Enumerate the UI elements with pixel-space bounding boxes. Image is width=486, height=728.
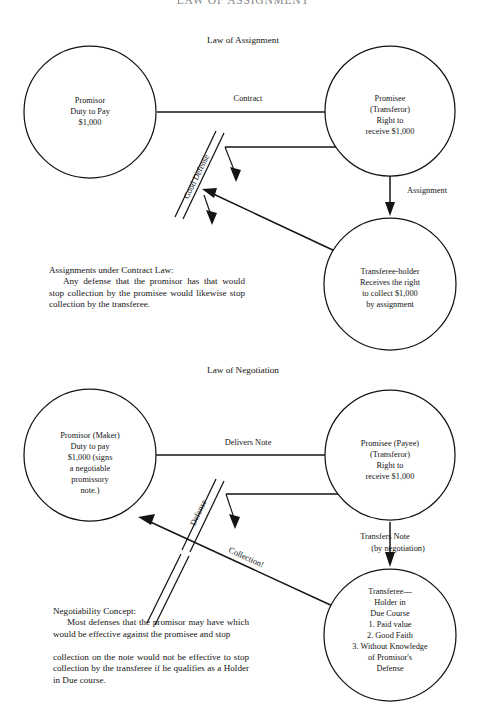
edge-label-contract: Contract bbox=[234, 94, 264, 103]
node-hdc-line-1: Transferee— bbox=[368, 587, 412, 596]
node-promisor2-line-6: note.) bbox=[80, 486, 99, 495]
node-promisee2-line-1: Promisee (Payee) bbox=[361, 439, 420, 448]
note-assignment-body: Any defense that the promisor has that w… bbox=[49, 276, 245, 309]
defense-bar-stroke-1 bbox=[183, 133, 224, 219]
arrowhead-promisee-defense bbox=[230, 167, 241, 182]
arrowhead-transfers-note bbox=[385, 552, 395, 567]
edge-label-assignment: Assignment bbox=[407, 186, 448, 195]
node-promisor2-line-5: promissory bbox=[71, 475, 109, 484]
edge-label-transfers-note-1: Transfers Note bbox=[360, 532, 410, 541]
node-transferee-line-4: by assignment bbox=[366, 300, 414, 309]
arrowhead-collection-blocked bbox=[206, 210, 217, 225]
node-hdc-line-5: 2. Good Faith bbox=[367, 631, 414, 640]
node-promisor2-line-4: a negotiable bbox=[70, 464, 111, 473]
note-negotiability-concept-continued: collection on the note would not be effe… bbox=[53, 652, 249, 686]
node-promisor-line-2: Duty to Pay bbox=[70, 107, 110, 116]
node-transferee-line-1: Transferee-holder bbox=[360, 267, 419, 276]
node-promisee2-line-4: receive $1,000 bbox=[366, 472, 415, 481]
node-promisee2-line-3: Right to bbox=[377, 461, 404, 470]
node-promisee-line-4: receive $1,000 bbox=[366, 127, 415, 136]
node-hdc-line-8: Defense bbox=[376, 664, 403, 673]
note-negotiability-heading: Negotiability Concept: bbox=[53, 606, 249, 617]
note-assignments-under-contract-law: Assignments under Contract Law: Any defe… bbox=[49, 265, 245, 311]
edge-label-defense: Defense bbox=[188, 498, 208, 527]
edge-label-transfers-note-2: (by negotiation) bbox=[371, 544, 425, 553]
node-promisor2-line-1: Promisor (Maker) bbox=[60, 431, 120, 440]
arrowhead-assignment bbox=[385, 202, 395, 216]
node-transferee-line-3: to collect $1,000 bbox=[362, 289, 418, 298]
diagram-page: LAW OF ASSIGNMENT Law of Assignment Cont… bbox=[0, 0, 486, 728]
node-hdc-line-4: 1. Paid value bbox=[368, 620, 411, 629]
node-promisor2-line-3: $1,000 (signs bbox=[68, 453, 113, 462]
node-hdc-line-7: of Promisor's bbox=[368, 653, 412, 662]
arrowhead-promisee-defense-2 bbox=[229, 514, 240, 529]
node-hdc-line-3: Due Course bbox=[370, 609, 410, 618]
node-promisor2-line-2: Duty to pay bbox=[70, 442, 110, 451]
edge-label-delivers-note: Delivers Note bbox=[225, 438, 272, 447]
edge-collection-line bbox=[146, 520, 337, 608]
note-assignment-heading: Assignments under Contract Law: bbox=[49, 265, 245, 276]
node-promisee-line-1: Promisee bbox=[375, 94, 406, 103]
edge-transferee-collection-line bbox=[209, 192, 337, 252]
section-heading-assignment: Law of Assignment bbox=[207, 35, 279, 45]
node-promisee2-line-2: (Transferor) bbox=[370, 450, 410, 459]
node-hdc-line-6: 3. Without Knowledge bbox=[352, 642, 428, 651]
node-transferee-line-2: Receives the right bbox=[360, 278, 421, 287]
note-negotiability-concept: Negotiability Concept: Most defenses tha… bbox=[53, 606, 249, 640]
note-negotiability-body-1: Most defenses that the promisor may have… bbox=[53, 617, 249, 638]
edge-label-good-defense: Good Defense bbox=[182, 153, 211, 200]
node-hdc-line-2: Holder in bbox=[374, 598, 406, 607]
node-promisee-line-2: (Transferor) bbox=[370, 105, 410, 114]
note-negotiability-body-2: collection on the note would not be effe… bbox=[53, 652, 249, 685]
node-promisee-line-3: Right to bbox=[377, 116, 404, 125]
node-promisor-line-3: $1,000 bbox=[79, 118, 102, 127]
section-heading-negotiation: Law of Negotiation bbox=[207, 365, 279, 375]
node-promisor-line-1: Promisor bbox=[75, 96, 106, 105]
